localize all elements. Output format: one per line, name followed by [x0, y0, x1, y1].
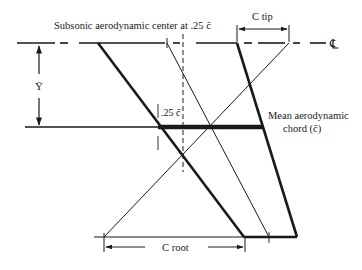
mac-label-line1: Mean aerodynamic [268, 110, 349, 121]
construction-diagonal [104, 43, 289, 237]
quarter-chord-label: .25 c̄ [161, 107, 181, 118]
mac-label-line2: chord (c̄) [283, 123, 322, 135]
c-root-label: C root [162, 242, 189, 253]
y-bar-label: Ȳ [35, 80, 43, 92]
aerodynamic-center-label: Subsonic aerodynamic center at .25 c̄ [54, 20, 211, 31]
wing-planform-diagram: ℄ Subsonic aerodynamic center at .25 c̄ … [0, 0, 362, 270]
c-tip-label: C tip [252, 11, 273, 22]
c-tip-dimension [237, 25, 289, 42]
centerline-symbol: ℄ [329, 36, 339, 51]
quarter-chord-line [167, 43, 269, 237]
trailing-edge [237, 43, 297, 237]
leading-edge [98, 43, 244, 237]
